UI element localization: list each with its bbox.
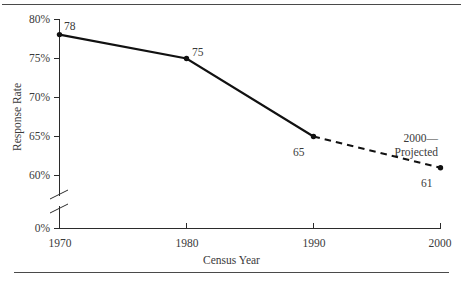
y-tick-label-75: 75% bbox=[10, 53, 50, 65]
data-label-75: 75 bbox=[192, 47, 204, 59]
series-line-observed bbox=[60, 35, 314, 137]
figure-container: 80% 75% 70% 65% 60% 0% 1970 1980 1990 20… bbox=[0, 0, 463, 281]
annotation-line-1: 2000— bbox=[395, 131, 438, 145]
x-tick-label-1980: 1980 bbox=[161, 238, 213, 250]
y-tick-label-0: 0% bbox=[10, 223, 50, 235]
data-label-78: 78 bbox=[64, 21, 76, 33]
y-tick-label-80: 80% bbox=[10, 14, 50, 26]
data-point-1970 bbox=[57, 32, 62, 37]
y-axis-title: Response Rate bbox=[11, 67, 23, 167]
x-axis-title: Census Year bbox=[0, 254, 463, 266]
data-label-61: 61 bbox=[421, 178, 433, 190]
data-label-65: 65 bbox=[293, 147, 305, 159]
x-tick-label-2000: 2000 bbox=[414, 238, 463, 250]
data-point-1980 bbox=[184, 56, 189, 61]
x-tick-label-1970: 1970 bbox=[34, 238, 86, 250]
y-tick-label-60: 60% bbox=[10, 170, 50, 182]
data-point-1990 bbox=[311, 134, 316, 139]
annotation-projected: 2000— Projected bbox=[395, 131, 438, 159]
annotation-line-2: Projected bbox=[395, 145, 438, 159]
data-point-2000 bbox=[438, 165, 443, 170]
x-tick-label-1990: 1990 bbox=[288, 238, 340, 250]
